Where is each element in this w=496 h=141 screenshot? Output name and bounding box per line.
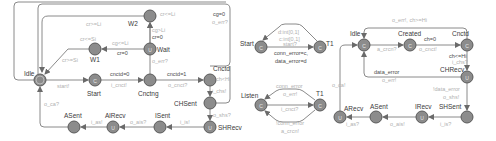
location-name: Created (398, 30, 422, 37)
location-name: Wait (157, 46, 170, 53)
edge-guard-label: cr<=Si (80, 36, 96, 42)
location-client-wait[interactable]: U (144, 43, 156, 55)
location-channel-1-start[interactable]: C (255, 41, 267, 53)
location-client-asent[interactable] (68, 121, 80, 133)
location-circle[interactable] (144, 10, 156, 22)
location-server-created[interactable]: C (404, 39, 416, 51)
edge-guard-label: start? (283, 41, 297, 47)
edge-guard-label: o_cnct? (168, 82, 187, 88)
edge-guard-label: o_err! (382, 77, 397, 83)
location-client-w1[interactable] (89, 43, 101, 55)
edge-update-label: data_error (374, 69, 400, 75)
location-name: ASent (64, 112, 82, 119)
state-machine-canvas: UCUUCCCCCCCUUU IdleW2W1WaitStartCnctngCn… (0, 0, 496, 141)
location-client-shrecv[interactable]: U (204, 121, 216, 133)
edge-guard-label: i_chs! (212, 88, 227, 94)
location-name: T1 (326, 40, 334, 47)
location-client-cnctng[interactable] (144, 74, 156, 86)
location-circle[interactable] (461, 111, 473, 123)
location-server-shsent[interactable] (461, 111, 473, 123)
location-name: Idle (350, 30, 361, 37)
location-channel-2-t1b[interactable]: C (314, 99, 326, 111)
committed-marker-icon: C (259, 103, 263, 109)
location-server-cnctd[interactable]: C (461, 39, 473, 51)
location-circle[interactable] (144, 74, 156, 86)
location-client-isent[interactable] (154, 121, 166, 133)
location-name: CHRecv (440, 66, 465, 73)
edge-guard-label: !data_error (433, 86, 460, 92)
location-channel-2-listen[interactable]: C (255, 99, 267, 111)
edge-guard-label: i_is? (440, 121, 451, 127)
location-name: Start (240, 40, 254, 47)
location-name: SHRecv (218, 124, 243, 131)
location-server-idle[interactable]: C (358, 39, 370, 51)
edge-guard-label: cr>=Si (62, 57, 78, 63)
location-name: ISent (155, 112, 170, 119)
edge-update-label: ch=0 (424, 36, 436, 42)
location-client-start[interactable]: C (89, 74, 101, 86)
edge-guard-label: cg<=Li (112, 40, 129, 46)
edge-asent-idle (40, 87, 68, 127)
location-name: Idle (24, 70, 35, 77)
location-server-irecv[interactable]: U (416, 111, 428, 123)
location-server-arecv[interactable]: U (334, 111, 346, 123)
edge-guard-label: o_err? (152, 58, 168, 64)
edge-guard-label: conn_error (276, 83, 303, 89)
edge-guard-label: o_err! (283, 91, 298, 97)
location-circle[interactable] (89, 43, 101, 55)
edge-guard-label: d:int[0,1] (278, 29, 300, 35)
location-name: AlRecv (105, 112, 126, 119)
location-name: W2 (128, 20, 138, 27)
edge-guard-label: i_cnct? (281, 106, 298, 112)
edge-outer-loop (38, 4, 230, 74)
edge-update-label: cr=0 (117, 50, 128, 56)
location-circle[interactable] (154, 121, 166, 133)
edge-guard-label: !conn_error (276, 120, 304, 126)
urgent-marker-icon: U (148, 47, 152, 53)
edge-guard-label: cg>Li (152, 27, 165, 33)
location-name: ASent (370, 103, 388, 110)
edge-update-label: conn_error=c, (274, 50, 309, 56)
committed-marker-icon: C (408, 43, 412, 49)
edge-guard-label: o_shs! (443, 94, 460, 100)
urgent-marker-icon: U (420, 115, 424, 121)
edge-guard-label: o_shs? (213, 112, 231, 118)
location-client-alrecv[interactable]: U (107, 121, 119, 133)
location-name: Start (87, 90, 101, 97)
location-circle[interactable] (204, 74, 216, 86)
edge-guard-label: a_crcn? (377, 46, 397, 52)
location-name: CHSent (174, 100, 197, 107)
location-circle[interactable] (204, 97, 216, 109)
committed-marker-icon: C (465, 43, 469, 49)
edge-guard-label: cr>=Li (86, 21, 101, 27)
edge-update-label: cnctd=1 (167, 71, 186, 77)
location-name: T1 (316, 90, 324, 97)
edge-guard-label: i_as! (91, 119, 103, 125)
location-server-asent[interactable] (370, 111, 382, 123)
edge-arecv-idle (340, 45, 357, 111)
location-name: ARecv (344, 105, 364, 112)
committed-marker-icon: C (318, 45, 322, 51)
edge-guard-label: start! (57, 83, 70, 89)
edge-guard-label: o_cnct! (419, 46, 437, 52)
location-client-w2[interactable] (144, 10, 156, 22)
location-circle[interactable] (68, 121, 80, 133)
location-name: SHSent (439, 103, 462, 110)
location-client-cnctd[interactable] (204, 74, 216, 86)
edge-guard-label: i_is! (180, 119, 190, 125)
edge-update-label: cnctd=0 (110, 71, 129, 77)
edge-guard-label: o_ca? (44, 101, 59, 107)
location-name: Listen (241, 92, 259, 99)
location-client-idle[interactable] (34, 74, 46, 86)
committed-marker-icon: C (318, 103, 322, 109)
location-name: W1 (90, 56, 100, 63)
committed-marker-icon: C (93, 78, 97, 84)
location-circle[interactable] (370, 111, 382, 123)
edge-guard-label: a_crcn! (281, 128, 300, 134)
edge-update-label: data_error=d (275, 58, 307, 64)
urgent-marker-icon: U (111, 125, 115, 131)
edge-guard-label: o_ais? (130, 119, 146, 125)
location-channel-1-t1[interactable]: C (314, 41, 326, 53)
location-client-chsent[interactable] (204, 97, 216, 109)
committed-marker-icon: C (259, 45, 263, 51)
